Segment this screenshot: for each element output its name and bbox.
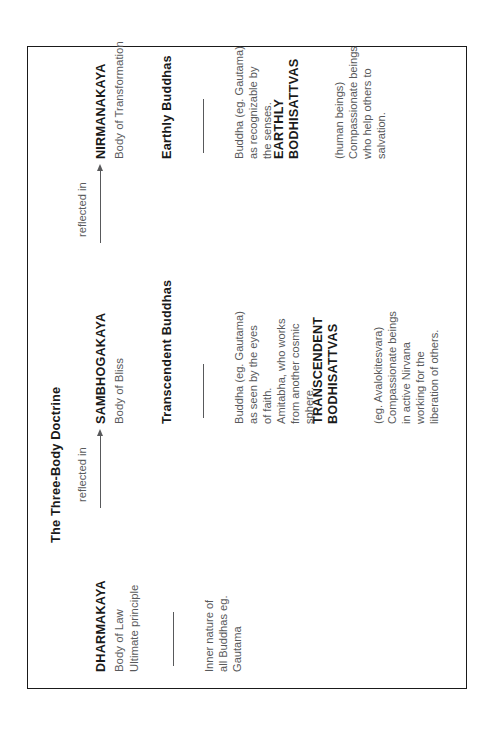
transcendent-bodhisattvas-detail-wrap: (eg. Avalokitesvara) Compassionate being… <box>353 244 459 424</box>
arrow-2-head <box>97 164 103 171</box>
diagram-stage: The Three-Body Doctrine DHARMAKAYA Body … <box>32 48 462 688</box>
earthly-buddhas-connector-tick <box>203 99 204 153</box>
transcendent-bodhisattvas-heading-2: BODHISATTVAS <box>326 244 341 424</box>
earthly-buddhas-heading: Earthly Buddhas <box>160 0 175 159</box>
arrow-2-line <box>100 170 101 243</box>
node-earthly-bodhisattvas: EARTHLY BODHISATTVAS <box>272 0 302 159</box>
dharmakaya-subtitle-2: Ultimate principle <box>127 522 141 672</box>
earthly-bodhisattvas-detail: (human beings) Compassionate beings who … <box>332 0 388 159</box>
node-nirmanakaya: NIRMANAKAYA Body of Transformation <box>94 0 126 159</box>
diagram-page: The Three-Body Doctrine DHARMAKAYA Body … <box>0 0 484 733</box>
transcendent-bodhisattvas-detail: (eg. Avalokitesvara) Compassionate being… <box>371 244 441 424</box>
dharmakaya-heading: DHARMAKAYA <box>94 522 109 672</box>
arrow-2-label: reflected in <box>76 182 88 237</box>
page-title: The Three-Body Doctrine <box>48 386 63 542</box>
node-dharmakaya: DHARMAKAYA Body of Law Ultimate principl… <box>94 522 142 672</box>
sambhogakaya-subtitle-1: Body of Bliss <box>112 254 126 424</box>
diagram-frame: The Three-Body Doctrine DHARMAKAYA Body … <box>27 46 467 689</box>
dharmakaya-detail: Inner nature of all Buddhas eg. Gautama <box>202 522 244 672</box>
transcendent-buddhas-connector-tick <box>203 364 204 418</box>
earthly-buddhas-detail: Buddha (eg. Gautama) as recognizable by … <box>232 0 274 159</box>
dharmakaya-subtitle-1: Body of Law <box>112 522 126 672</box>
node-earthly-buddhas: Earthly Buddhas <box>160 0 175 159</box>
node-sambhogakaya: SAMBHOGAKAYA Body of Bliss <box>94 254 126 424</box>
transcendent-buddhas-detail: Buddha (eg. Gautama) as seen by the eyes… <box>232 244 316 424</box>
arrow-1-line <box>100 435 101 508</box>
nirmanakaya-heading: NIRMANAKAYA <box>94 0 109 159</box>
dharmakaya-connector-tick <box>173 612 174 666</box>
dharmakaya-detail-text: Inner nature of all Buddhas eg. Gautama <box>184 522 262 672</box>
transcendent-bodhisattvas-heading-1: TRANSCENDENT <box>311 244 326 424</box>
sambhogakaya-heading: SAMBHOGAKAYA <box>94 254 109 424</box>
node-transcendent-bodhisattvas: TRANSCENDENT BODHISATTVAS <box>311 244 341 424</box>
node-transcendent-buddhas: Transcendent Buddhas <box>160 244 175 424</box>
earthly-bodhisattvas-heading-2: BODHISATTVAS <box>287 0 302 159</box>
arrow-1-head <box>97 429 103 436</box>
earthly-bodhisattvas-heading-1: EARTHLY <box>272 0 287 159</box>
nirmanakaya-subtitle-1: Body of Transformation <box>112 0 126 159</box>
earthly-bodhisattvas-detail-wrap: (human beings) Compassionate beings who … <box>314 0 406 159</box>
arrow-1-label: reflected in <box>76 447 88 502</box>
transcendent-buddhas-heading: Transcendent Buddhas <box>160 244 175 424</box>
